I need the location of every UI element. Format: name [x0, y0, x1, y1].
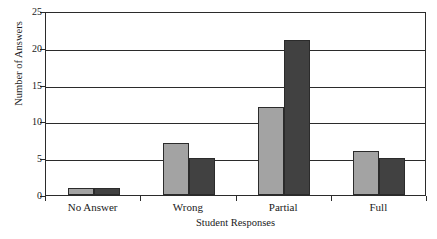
bar — [353, 151, 379, 195]
y-axis-tick-label: 5 — [12, 154, 42, 164]
x-axis-category-label: Partial — [236, 201, 331, 214]
y-axis-tick-label: 20 — [12, 44, 42, 54]
x-axis-category-label: No Answer — [45, 201, 140, 214]
bar — [379, 158, 405, 195]
gridline — [46, 50, 425, 51]
y-axis-tick-label: 10 — [12, 117, 42, 127]
gridline — [46, 123, 425, 124]
y-axis-tick-label: 0 — [12, 191, 42, 201]
x-axis-category-label: Wrong — [140, 201, 235, 214]
x-axis-tick — [45, 196, 46, 201]
bar — [189, 158, 215, 195]
x-axis-tick — [140, 196, 141, 201]
x-axis-tick — [331, 196, 332, 201]
bar — [258, 107, 284, 195]
bar-chart-figure: Number of Answers 0510152025 No AnswerWr… — [0, 0, 437, 239]
chart-title — [0, 0, 437, 2]
y-axis-tick-label: 25 — [12, 7, 42, 17]
x-axis-category-label: Full — [331, 201, 426, 214]
bar — [163, 143, 189, 195]
bar — [68, 188, 94, 195]
x-axis-tick — [426, 196, 427, 201]
y-axis-title: Number of Answers — [13, 0, 24, 134]
plot-area — [45, 12, 426, 196]
x-axis-tick — [236, 196, 237, 201]
bar — [94, 188, 120, 195]
bar — [284, 40, 310, 195]
y-axis-tick-label: 15 — [12, 81, 42, 91]
gridline — [46, 87, 425, 88]
x-axis-title: Student Responses — [45, 217, 426, 228]
